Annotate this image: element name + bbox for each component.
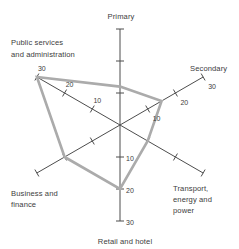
category-label: Retail and hotel bbox=[98, 237, 153, 246]
category-label: Transport, bbox=[173, 184, 208, 193]
category-label: and administration bbox=[11, 50, 75, 59]
tick-label: 10 bbox=[93, 97, 101, 104]
tick-label: 10 bbox=[126, 155, 134, 162]
category-label: energy and bbox=[173, 195, 212, 204]
axis-tick bbox=[90, 106, 94, 113]
category-label: Primary bbox=[108, 12, 135, 21]
category-label: Public services bbox=[11, 38, 63, 47]
axis-tick bbox=[173, 90, 177, 97]
axis-tick bbox=[201, 74, 205, 81]
category-label: Secondary bbox=[190, 64, 227, 73]
tick-label: 20 bbox=[66, 81, 74, 88]
tick-label: 30 bbox=[126, 219, 134, 226]
category-label: finance bbox=[11, 200, 36, 209]
axis-tick bbox=[146, 106, 150, 113]
tick-label: 10 bbox=[153, 115, 161, 122]
axis-tick bbox=[63, 90, 67, 97]
category-label: power bbox=[173, 206, 195, 215]
axis-tick bbox=[90, 138, 94, 145]
axis-tick bbox=[201, 170, 205, 177]
axis-tick bbox=[173, 154, 177, 161]
tick-label: 20 bbox=[180, 99, 188, 106]
tick-label: 20 bbox=[126, 187, 134, 194]
tick-label: 30 bbox=[38, 65, 46, 72]
radar-chart: 102030102030102030PrimarySecondaryTransp… bbox=[0, 0, 239, 249]
radar-chart-figure: 102030102030102030PrimarySecondaryTransp… bbox=[0, 0, 239, 249]
axis-tick bbox=[35, 170, 39, 177]
category-label: Business and bbox=[11, 189, 58, 198]
data-polygon bbox=[37, 77, 162, 189]
tick-label: 30 bbox=[208, 83, 216, 90]
